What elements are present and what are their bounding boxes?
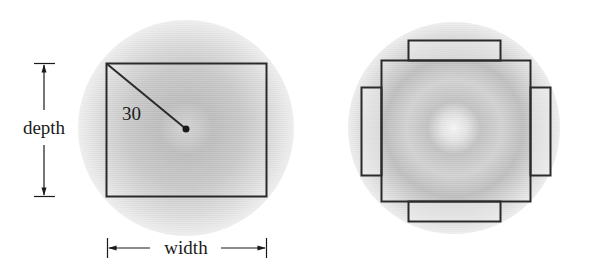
figure-canvas: 30 depth width (0, 0, 589, 268)
left-diagram: 30 depth width (23, 20, 294, 258)
flap-top (409, 41, 501, 61)
flap-bottom (409, 202, 501, 222)
radius-label: 30 (122, 103, 141, 124)
depth-dimension: depth (23, 64, 66, 197)
depth-label: depth (23, 117, 66, 138)
width-label: width (164, 237, 208, 258)
width-dimension: width (108, 237, 267, 258)
center-dot (183, 126, 190, 133)
flap-right (531, 88, 551, 176)
right-diagram (348, 22, 560, 234)
flap-left (362, 88, 382, 176)
